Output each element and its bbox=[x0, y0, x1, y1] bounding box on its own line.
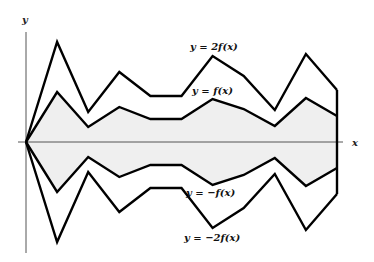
label-f: y = f(x) bbox=[191, 85, 233, 96]
x-axis-label: x bbox=[351, 137, 359, 148]
label-neg-2f: y = −2f(x) bbox=[183, 232, 240, 243]
label-neg-f: y = −f(x) bbox=[185, 187, 236, 198]
function-scaling-diagram: y x y = 2f(x) y = f(x) y = −f(x) y = −2f… bbox=[0, 0, 374, 262]
y-axis-label: y bbox=[21, 14, 29, 25]
label-2f: y = 2f(x) bbox=[189, 41, 238, 52]
diagram-stage: y x y = 2f(x) y = f(x) y = −f(x) y = −2f… bbox=[0, 0, 374, 262]
